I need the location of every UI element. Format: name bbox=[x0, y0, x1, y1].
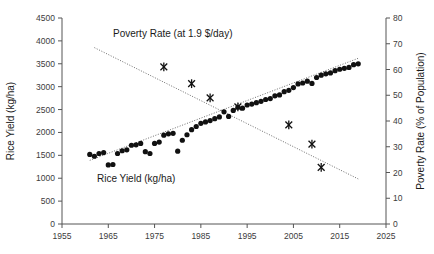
x-axis-tick-label: 1985 bbox=[191, 231, 210, 241]
rice-yield-data-point bbox=[120, 148, 125, 153]
rice-yield-data-point bbox=[309, 81, 314, 86]
left-axis-tick-label: 1500 bbox=[36, 150, 55, 160]
left-axis-tick-label: 500 bbox=[41, 196, 55, 206]
rice-yield-data-point bbox=[180, 138, 185, 143]
rice-yield-data-point bbox=[305, 79, 310, 84]
rice-yield-data-point bbox=[332, 68, 337, 73]
right-axis-tick-label: 60 bbox=[393, 65, 403, 75]
rice-yield-data-point bbox=[110, 162, 115, 167]
rice-yield-data-point bbox=[175, 149, 180, 154]
right-axis-tick-label: 10 bbox=[393, 193, 403, 203]
rice-yield-data-point bbox=[138, 141, 143, 146]
rice-yield-data-point bbox=[101, 150, 106, 155]
left-axis-tick-label: 2000 bbox=[36, 127, 55, 137]
rice-yield-data-point bbox=[226, 114, 231, 119]
rice-yield-data-point bbox=[184, 132, 189, 137]
rice-yield-data-point bbox=[157, 139, 162, 144]
left-axis-tick-label: 4500 bbox=[36, 13, 55, 23]
x-axis-tick-group: 19551965197519851995200520152025 bbox=[53, 224, 396, 241]
poverty-series-annotation: Poverty Rate (at 1.9 $/day) bbox=[113, 28, 233, 39]
poverty-rate-data-point bbox=[188, 79, 195, 88]
rice-yield-data-point bbox=[282, 89, 287, 94]
chart-container: 050010001500200025003000350040004500 010… bbox=[0, 0, 434, 254]
rice-yield-data-point bbox=[351, 62, 356, 67]
rice-yield-data-point bbox=[170, 131, 175, 136]
rice-yield-data-point bbox=[152, 141, 157, 146]
poverty-rate-data-point bbox=[309, 140, 316, 149]
rice-yield-data-point bbox=[319, 73, 324, 78]
rice-yield-data-point bbox=[203, 119, 208, 124]
right-axis-tick-group: 01020304050607080 bbox=[386, 13, 403, 229]
rice-yield-data-point bbox=[291, 85, 296, 90]
left-axis-title: Rice Yield (kg/ha) bbox=[5, 82, 16, 160]
right-axis-tick-label: 30 bbox=[393, 142, 403, 152]
rice-yield-data-point bbox=[337, 67, 342, 72]
rice-yield-data-point bbox=[295, 81, 300, 86]
x-axis-tick-label: 1965 bbox=[99, 231, 118, 241]
rice-yield-data-point bbox=[323, 71, 328, 76]
rice-yield-data-point bbox=[143, 149, 148, 154]
rice-yield-data-point bbox=[254, 100, 259, 105]
left-axis-tick-group: 050010001500200025003000350040004500 bbox=[36, 13, 62, 229]
poverty-rate-data-point bbox=[318, 163, 325, 172]
rice-yield-data-point bbox=[208, 118, 213, 123]
rice-yield-data-point bbox=[272, 93, 277, 98]
right-axis-tick-label: 50 bbox=[393, 90, 403, 100]
rice-yield-data-point bbox=[249, 101, 254, 106]
poverty-rate-data-point bbox=[285, 120, 292, 129]
rice-yield-data-point bbox=[194, 124, 199, 129]
rice-yield-point-group bbox=[87, 61, 361, 167]
x-axis-tick-label: 2005 bbox=[284, 231, 303, 241]
rice-yield-data-point bbox=[268, 96, 273, 101]
rice-yield-data-point bbox=[286, 88, 291, 93]
left-axis-tick-label: 0 bbox=[50, 219, 55, 229]
rice-yield-data-point bbox=[115, 151, 120, 156]
rice-yield-data-point bbox=[133, 142, 138, 147]
left-axis-tick-label: 3500 bbox=[36, 59, 55, 69]
rice-yield-data-point bbox=[221, 109, 226, 114]
rice-yield-data-point bbox=[212, 116, 217, 121]
x-axis-tick-label: 2015 bbox=[330, 231, 349, 241]
poverty-rate-trend bbox=[94, 48, 358, 179]
right-axis-tick-label: 0 bbox=[393, 219, 398, 229]
rice-yield-data-point bbox=[356, 61, 361, 66]
rice-yield-data-point bbox=[245, 102, 250, 107]
left-axis-tick-label: 2500 bbox=[36, 105, 55, 115]
rice-yield-data-point bbox=[147, 151, 152, 156]
yield-series-annotation: Rice Yield (kg/ha) bbox=[97, 173, 175, 184]
rice-yield-data-point bbox=[346, 65, 351, 70]
rice-yield-data-point bbox=[96, 151, 101, 156]
right-axis-tick-label: 20 bbox=[393, 168, 403, 178]
rice-yield-data-point bbox=[277, 92, 282, 97]
x-axis-tick-label: 1995 bbox=[238, 231, 257, 241]
right-axis-title: Poverty Rate (% of Population) bbox=[415, 52, 426, 189]
x-axis-tick-label: 1955 bbox=[53, 231, 72, 241]
dual-axis-scatter-chart: 050010001500200025003000350040004500 010… bbox=[0, 0, 434, 254]
poverty-rate-data-point bbox=[207, 93, 214, 102]
rice-yield-data-point bbox=[189, 127, 194, 132]
x-axis-tick-label: 2025 bbox=[377, 231, 396, 241]
rice-yield-data-point bbox=[129, 143, 134, 148]
rice-yield-data-point bbox=[300, 80, 305, 85]
rice-yield-data-point bbox=[258, 99, 263, 104]
rice-yield-data-point bbox=[106, 162, 111, 167]
left-axis-tick-label: 1000 bbox=[36, 173, 55, 183]
rice-yield-data-point bbox=[161, 133, 166, 138]
right-axis-tick-label: 80 bbox=[393, 13, 403, 23]
right-axis-tick-label: 70 bbox=[393, 39, 403, 49]
left-axis-tick-label: 3000 bbox=[36, 82, 55, 92]
rice-yield-data-point bbox=[198, 121, 203, 126]
rice-yield-data-point bbox=[263, 97, 268, 102]
rice-yield-data-point bbox=[314, 75, 319, 80]
right-axis-tick-label: 40 bbox=[393, 116, 403, 126]
rice-yield-data-point bbox=[87, 152, 92, 157]
rice-yield-data-point bbox=[92, 154, 97, 159]
x-axis-tick-label: 1975 bbox=[145, 231, 164, 241]
left-axis-tick-label: 4000 bbox=[36, 36, 55, 46]
rice-yield-data-point bbox=[342, 66, 347, 71]
rice-yield-data-point bbox=[166, 131, 171, 136]
poverty-rate-point-group bbox=[160, 63, 324, 172]
rice-yield-data-point bbox=[124, 147, 129, 152]
poverty-rate-data-point bbox=[160, 63, 167, 72]
rice-yield-data-point bbox=[217, 114, 222, 119]
